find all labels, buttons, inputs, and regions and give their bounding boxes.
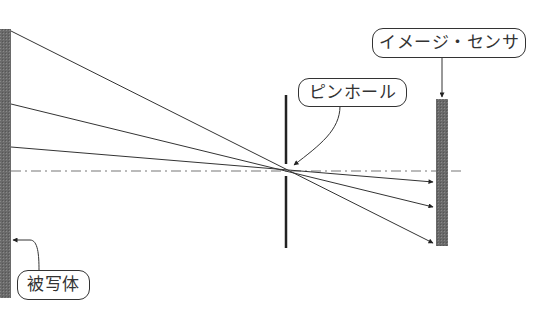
image-sensor-label: イメージ・センサ bbox=[372, 28, 526, 58]
pinhole-leader bbox=[294, 106, 340, 165]
pinhole-label: ピンホール bbox=[298, 78, 407, 107]
ray-3 bbox=[11, 147, 433, 182]
subject-plate bbox=[0, 29, 11, 298]
ray-2 bbox=[11, 104, 433, 207]
image-sensor-plate bbox=[436, 99, 448, 246]
ray-1 bbox=[11, 31, 433, 243]
subject-label: 被写体 bbox=[17, 270, 90, 300]
subject-leader bbox=[13, 240, 39, 270]
